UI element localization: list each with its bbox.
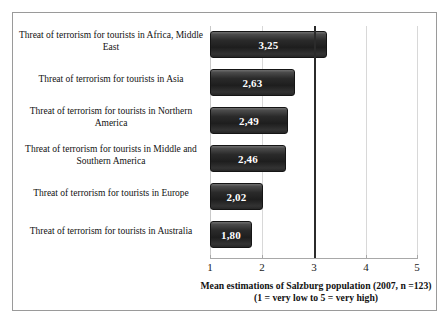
x-tick-label: 4 xyxy=(356,261,376,273)
bar-value-label: 2,63 xyxy=(211,70,294,97)
bar-row: Threat of terrorism for tourists in Afri… xyxy=(0,26,448,64)
x-tick-mark xyxy=(262,255,263,259)
bar-value-label: 1,80 xyxy=(211,222,251,249)
category-label: Threat of terrorism for tourists in Euro… xyxy=(18,188,204,200)
bar-europe[interactable]: 2,02 xyxy=(210,183,263,210)
bar-row: Threat of terrorism for tourists in Aust… xyxy=(0,216,448,254)
figure-container: Threat of terrorism for tourists in Afri… xyxy=(0,0,448,324)
bar-asia[interactable]: 2,63 xyxy=(210,69,295,96)
bar-value-label: 2,49 xyxy=(211,108,287,135)
category-label: Threat of terrorism for tourists in Midd… xyxy=(18,144,204,167)
bar-value-label: 2,02 xyxy=(211,184,262,211)
x-tick-mark xyxy=(417,255,418,259)
bar-australia[interactable]: 1,80 xyxy=(210,221,252,248)
x-tick-label: 1 xyxy=(200,261,220,273)
bar-row: Threat of terrorism for tourists in Nort… xyxy=(0,102,448,140)
caption-line-2: (1 = very low to 5 = very high) xyxy=(196,292,436,304)
category-label: Threat of terrorism for tourists in Afri… xyxy=(18,30,204,53)
bar-africa-middle-east[interactable]: 3,25 xyxy=(210,31,327,58)
bar-row: Threat of terrorism for tourists in Euro… xyxy=(0,178,448,216)
x-tick-label: 5 xyxy=(407,261,427,273)
caption-line-1: Mean estimations of Salzburg population … xyxy=(196,280,436,292)
x-tick-label: 2 xyxy=(252,261,272,273)
bar-value-label: 3,25 xyxy=(211,32,326,59)
bar-value-label: 2,46 xyxy=(211,146,285,173)
x-tick-label: 3 xyxy=(304,261,324,273)
x-axis-caption: Mean estimations of Salzburg population … xyxy=(196,280,436,304)
bar-middle-southern-america[interactable]: 2,46 xyxy=(210,145,286,172)
category-label: Threat of terrorism for tourists in Nort… xyxy=(18,106,204,129)
bar-northern-america[interactable]: 2,49 xyxy=(210,107,288,134)
x-tick-mark xyxy=(366,255,367,259)
bar-row: Threat of terrorism for tourists in Midd… xyxy=(0,140,448,178)
bar-row: Threat of terrorism for tourists in Asia… xyxy=(0,64,448,102)
x-tick-mark xyxy=(210,255,211,259)
gridline-3-highlight xyxy=(314,26,316,258)
category-label: Threat of terrorism for tourists in Asia xyxy=(18,74,204,86)
category-label: Threat of terrorism for tourists in Aust… xyxy=(18,226,204,238)
